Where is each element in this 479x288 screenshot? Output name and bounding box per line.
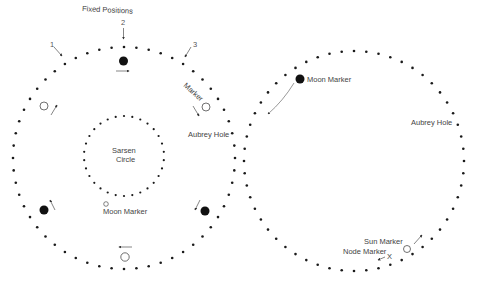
aubrey-holes-diagram: Fixed Positions 1 2 3 Marker Aubrey Hole… [0, 0, 479, 288]
aubrey-hole-dot [64, 63, 67, 66]
aubrey-hole-dot [460, 184, 463, 187]
aubrey-hole-dot [316, 264, 319, 267]
direction-arrow-upper-right [193, 106, 199, 116]
aubrey-hole-dot [294, 67, 297, 70]
sarsen-stone-dot [99, 187, 101, 189]
open-marker-bottom [121, 253, 129, 261]
direction-arrow-lower-right [195, 200, 200, 210]
aubrey-hole-dot [254, 207, 257, 210]
aubrey-hole-dot [98, 265, 101, 268]
aubrey-hole-dot [135, 267, 138, 270]
aubrey-hole-dot [75, 257, 78, 260]
aubrey-hole-dot [135, 46, 138, 49]
aubrey-hole-dot [147, 49, 150, 52]
aubrey-hole-dot [86, 52, 89, 55]
aubrey-hole-dot [29, 98, 32, 101]
aubrey-hole-dot [223, 109, 226, 112]
aubrey-hole-dot [305, 61, 308, 64]
aubrey-hole-dot [400, 259, 403, 262]
sarsen-stone-dot [131, 116, 133, 118]
aubrey-hole-dot [182, 251, 185, 254]
aubrey-hole-dot [182, 63, 185, 66]
aubrey-hole-dot [340, 269, 343, 272]
marker-label: Marker [182, 81, 206, 104]
aubrey-hole-dot [44, 235, 47, 238]
sarsen-stone-dot [153, 182, 155, 184]
direction-arrow-upper-left [51, 105, 57, 115]
sarsen-stone-dot [85, 167, 87, 169]
aubrey-hole-dot [439, 91, 442, 94]
aubrey-hole-dot [15, 132, 18, 135]
aubrey-hole-dot [110, 46, 113, 49]
sarsen-stone-dot [115, 194, 117, 196]
aubrey-hole-dot [147, 265, 150, 268]
aubrey-hole-dot [171, 257, 174, 260]
sarsen-stone-dot [123, 115, 125, 117]
direction-arrow-lower-left [50, 200, 55, 210]
aubrey-hole-dot [260, 218, 263, 221]
aubrey-hole-dot [98, 49, 101, 52]
aubrey-hole-dot [463, 160, 466, 163]
sarsen-stone-dot [93, 182, 95, 184]
aubrey-hole-dot [201, 235, 204, 238]
aubrey-hole-dot [328, 53, 331, 56]
moon-marker-small [104, 202, 109, 207]
aubrey-hole-dot [439, 228, 442, 231]
sun-marker [404, 246, 411, 253]
filled-marker-top [119, 57, 128, 66]
aubrey-hole-dot [192, 244, 195, 247]
aubrey-hole-dot [411, 67, 414, 70]
aubrey-hole-dot [210, 226, 213, 229]
sarsen-stone-dot [85, 143, 87, 145]
sarsen-stone-dot [107, 118, 109, 120]
aubrey-hole-dot [201, 78, 204, 81]
sarsen-stone-dot [146, 187, 148, 189]
aubrey-hole-dot [431, 82, 434, 85]
aubrey-hole-dot [228, 193, 231, 196]
aubrey-hole-dot [446, 101, 449, 104]
aubrey-hole-dot [353, 270, 356, 273]
aubrey-hole-dot [18, 193, 21, 196]
node-marker-arrow [378, 257, 385, 260]
aubrey-hole-dot [328, 267, 331, 270]
aubrey-hole-dot [446, 218, 449, 221]
aubrey-hole-dot [54, 70, 57, 73]
aubrey-hole-dot [249, 123, 252, 126]
aubrey-hole-dot [316, 56, 319, 59]
sarsen-stone-dot [153, 128, 155, 130]
sarsen-stone-dot [163, 151, 165, 153]
sarsen-stone-dot [139, 191, 141, 193]
aubrey-hole-dot [231, 181, 234, 184]
aubrey-hole-dot [294, 253, 297, 256]
aubrey-hole-dot [12, 169, 15, 172]
aubrey-hole-dot [29, 216, 32, 219]
sarsen-stone-dot [158, 175, 160, 177]
aubrey-hole-dot [431, 238, 434, 241]
node-marker-x: X [387, 252, 392, 261]
filled-marker-lower-left [40, 206, 49, 215]
aubrey-hole-dot [267, 228, 270, 231]
aubrey-hole-dot [377, 267, 380, 270]
aubrey-hole-dot [284, 74, 287, 77]
aubrey-hole-dot [15, 181, 18, 184]
right-aubrey-hole-circle [243, 50, 466, 273]
aubrey-hole-dot [18, 120, 21, 123]
aubrey-hole-dot [44, 78, 47, 81]
sarsen-stone-dot [139, 118, 141, 120]
aubrey-hole-dot [234, 157, 237, 160]
aubrey-hole-dot [421, 246, 424, 249]
sarsen-label-line2: Circle [116, 155, 135, 164]
aubrey-hole-dot [64, 251, 67, 254]
position-3-arrow [185, 47, 191, 57]
aubrey-hole-dot [365, 269, 368, 272]
sarsen-stone-dot [115, 116, 117, 118]
moon-marker-label-right: Moon Marker [307, 75, 352, 84]
aubrey-hole-dot [75, 57, 78, 60]
moon-marker-filled [296, 75, 305, 84]
aubrey-hole-dot [389, 56, 392, 59]
aubrey-hole-dot [284, 246, 287, 249]
aubrey-hole-dot [260, 101, 263, 104]
aubrey-hole-dot [254, 112, 257, 115]
aubrey-hole-dot [389, 264, 392, 267]
aubrey-hole-dot [123, 268, 126, 271]
